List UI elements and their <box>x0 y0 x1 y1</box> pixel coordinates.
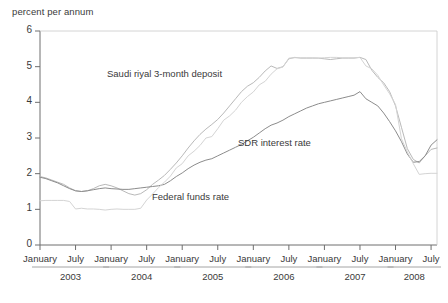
x-tick-label: January <box>308 253 342 264</box>
series-annotation-label: SDR interest rate <box>238 137 311 148</box>
x-tick-label: January <box>236 253 270 264</box>
x-tick-label: July <box>280 253 297 264</box>
series-line <box>40 57 437 210</box>
y-tick-label: 2 <box>14 167 32 178</box>
y-tick-label: 3 <box>14 131 32 142</box>
x-tick-label: January <box>23 253 57 264</box>
x-tick-label: July <box>423 253 440 264</box>
x-year-label: 2003 <box>60 271 81 282</box>
y-axis-title: percent per annum <box>12 6 93 17</box>
x-tick-label: July <box>209 253 226 264</box>
x-tick-label: July <box>67 253 84 264</box>
x-tick-label: July <box>138 253 155 264</box>
y-tick-label: 1 <box>14 202 32 213</box>
x-year-label: 2004 <box>131 271 152 282</box>
x-tick-label: January <box>94 253 128 264</box>
x-axis-ticks <box>40 245 431 250</box>
y-tick-label: 4 <box>14 95 32 106</box>
chart-figure: percent per annum 0123456 JanuaryJulyJan… <box>0 0 448 303</box>
series-annotation-label: Saudi riyal 3-month deposit <box>107 68 222 79</box>
x-year-label: 2007 <box>344 271 365 282</box>
y-axis-ticks <box>35 31 40 245</box>
x-year-label: 2005 <box>202 271 223 282</box>
x-tick-label: January <box>165 253 199 264</box>
x-year-label: 2008 <box>404 271 425 282</box>
x-year-label: 2006 <box>273 271 294 282</box>
y-tick-label: 6 <box>14 24 32 35</box>
x-tick-label: January <box>379 253 413 264</box>
y-tick-label: 0 <box>14 238 32 249</box>
x-tick-label: July <box>352 253 369 264</box>
series-line <box>40 57 437 195</box>
series-annotation-label: Federal funds rate <box>152 191 229 202</box>
y-tick-label: 5 <box>14 60 32 71</box>
series-paths <box>40 57 437 210</box>
